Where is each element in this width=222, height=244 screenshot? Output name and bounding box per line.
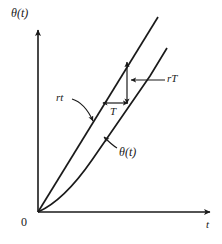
y-axis-label: θ(t)	[11, 7, 28, 19]
origin-label: 0	[21, 216, 27, 228]
theta-curve	[38, 48, 167, 212]
horizontal-measure-label: T	[110, 106, 116, 117]
vertical-measure-label: rT	[167, 73, 177, 84]
rt-leader-line	[72, 99, 93, 121]
x-axis-label: t	[206, 219, 209, 230]
figure-canvas: θ(t) t 0 rt T rT θ(t)	[0, 0, 222, 244]
ramp-line	[38, 17, 158, 212]
ramp-line-label: rt	[56, 92, 63, 103]
theta-curve-label: θ(t)	[119, 146, 136, 158]
theta-leader-line	[104, 137, 117, 148]
diagram-svg	[0, 0, 222, 244]
